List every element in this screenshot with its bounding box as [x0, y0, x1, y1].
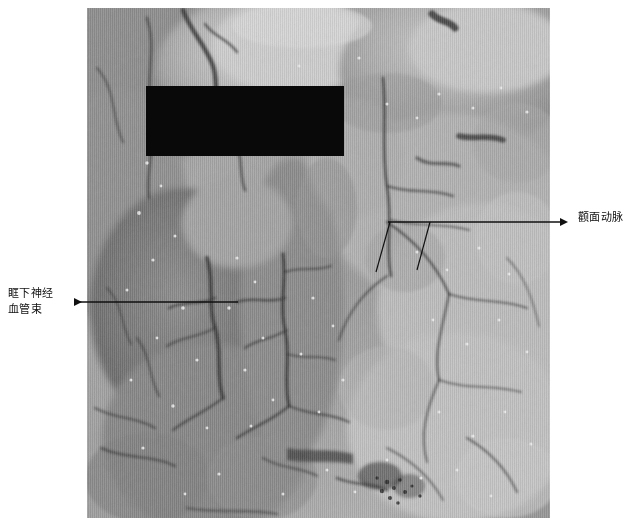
label-zygomaticofacial-line1: 颧面动脉 [578, 210, 624, 226]
specimen-photograph [87, 8, 550, 518]
label-infraorbital-line2: 血管束 [8, 302, 54, 318]
label-infraorbital-nerve-bundle: 眶下神经 血管束 [8, 286, 54, 318]
specimen-photo-graphic [87, 8, 550, 518]
label-infraorbital-line1: 眶下神经 [8, 286, 54, 302]
black-redaction-bar [146, 86, 344, 156]
figure-root: 眶下神经 血管束 颧面动脉 [0, 0, 629, 527]
label-zygomaticofacial-artery: 颧面动脉 [578, 210, 624, 226]
